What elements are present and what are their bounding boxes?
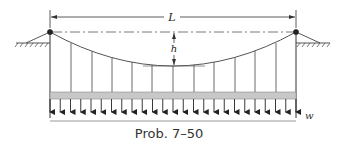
left-backstay	[26, 32, 50, 43]
right-pin-icon	[293, 29, 298, 34]
left-pin-icon	[47, 29, 52, 34]
span-label: L	[167, 11, 175, 24]
load-label: w	[305, 110, 314, 121]
sag-dimension: h	[143, 33, 205, 66]
left-ground-hatch	[15, 43, 48, 47]
span-dimension: L	[50, 10, 296, 28]
left-support	[15, 29, 53, 47]
right-backstay	[296, 32, 320, 43]
sag-label: h	[171, 43, 177, 54]
figure-caption: Prob. 7–50	[0, 126, 338, 141]
right-ground-hatch	[297, 43, 330, 47]
right-support	[293, 29, 330, 47]
distributed-load	[50, 99, 296, 112]
deck	[50, 92, 296, 99]
